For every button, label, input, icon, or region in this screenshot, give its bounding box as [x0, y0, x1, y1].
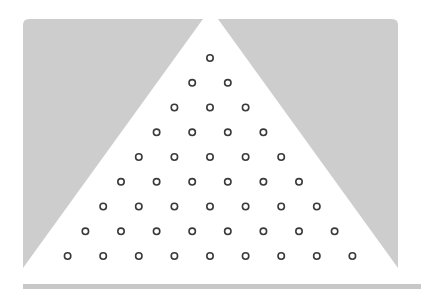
- left-wall: [23, 19, 203, 268]
- peg: [260, 179, 266, 185]
- peg: [189, 129, 195, 135]
- peg: [225, 179, 231, 185]
- peg-board-canvas: [0, 0, 421, 289]
- peg: [331, 228, 337, 234]
- peg: [64, 253, 70, 259]
- peg: [225, 129, 231, 135]
- peg: [82, 228, 88, 234]
- peg: [189, 179, 195, 185]
- peg: [153, 228, 159, 234]
- peg: [207, 253, 213, 259]
- peg: [118, 228, 124, 234]
- peg: [153, 129, 159, 135]
- peg: [207, 154, 213, 160]
- peg: [296, 228, 302, 234]
- peg: [136, 253, 142, 259]
- peg: [136, 203, 142, 209]
- peg: [278, 154, 284, 160]
- peg: [260, 228, 266, 234]
- peg: [278, 203, 284, 209]
- peg: [153, 179, 159, 185]
- peg: [278, 253, 284, 259]
- peg: [225, 80, 231, 86]
- peg: [136, 154, 142, 160]
- peg: [242, 203, 248, 209]
- peg: [100, 253, 106, 259]
- peg: [349, 253, 355, 259]
- peg: [242, 104, 248, 110]
- peg: [314, 253, 320, 259]
- peg: [118, 179, 124, 185]
- peg: [171, 104, 177, 110]
- peg: [171, 253, 177, 259]
- peg: [189, 80, 195, 86]
- peg: [207, 104, 213, 110]
- peg: [189, 228, 195, 234]
- peg: [225, 228, 231, 234]
- peg: [100, 203, 106, 209]
- right-wall: [218, 19, 398, 268]
- peg: [242, 253, 248, 259]
- peg: [260, 129, 266, 135]
- peg: [171, 203, 177, 209]
- game-board[interactable]: [0, 0, 421, 289]
- peg: [314, 203, 320, 209]
- peg: [171, 154, 177, 160]
- floor-bar: [23, 284, 421, 289]
- peg: [242, 154, 248, 160]
- peg: [207, 203, 213, 209]
- peg: [207, 55, 213, 61]
- peg: [296, 179, 302, 185]
